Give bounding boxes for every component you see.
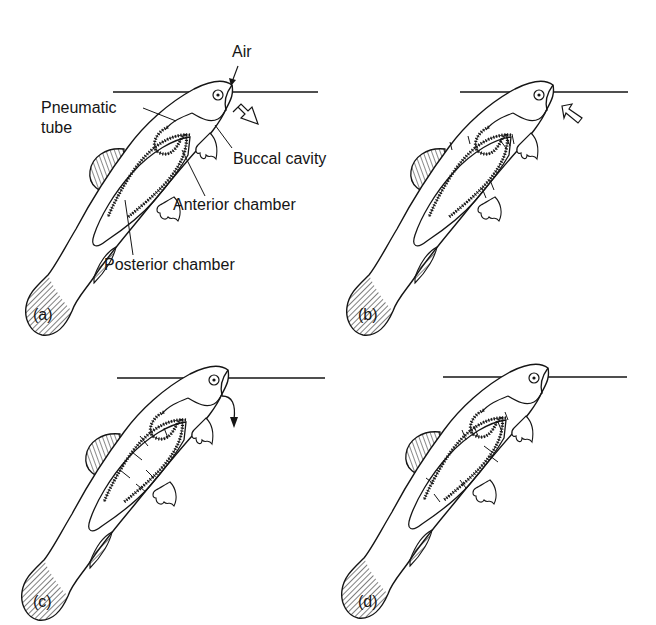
exhale-arrowhead-icon bbox=[230, 417, 238, 428]
pneumatic-tube-label-line2: tube bbox=[41, 119, 72, 137]
air-label: Air bbox=[232, 43, 252, 61]
panel-label-d: (d) bbox=[358, 593, 378, 611]
buccal-cavity-label: Buccal cavity bbox=[233, 150, 326, 168]
inflow-arrow-icon bbox=[562, 104, 582, 123]
panel-d bbox=[342, 365, 627, 619]
fish-illustration bbox=[347, 82, 554, 336]
fish-illustration bbox=[22, 367, 229, 621]
panel-b bbox=[347, 82, 628, 336]
panel-c bbox=[22, 367, 325, 621]
fish-illustration bbox=[342, 365, 549, 619]
buccal-cavity-leader bbox=[215, 125, 232, 148]
anterior-chamber-label: Anterior chamber bbox=[173, 196, 296, 214]
panel-label-b: (b) bbox=[358, 306, 378, 324]
pneumatic-tube-label-line1: Pneumatic bbox=[41, 99, 117, 117]
air-breathing-diagram: Air Pneumatic tube Buccal cavity Anterio… bbox=[0, 0, 656, 625]
exhale-curve-line bbox=[222, 396, 235, 420]
panel-label-c: (c) bbox=[33, 593, 52, 611]
panel-label-a: (a) bbox=[33, 306, 53, 324]
diagram-canvas bbox=[0, 0, 656, 625]
outflow-arrow-icon bbox=[233, 104, 258, 124]
posterior-chamber-label: Posterior chamber bbox=[104, 256, 235, 274]
